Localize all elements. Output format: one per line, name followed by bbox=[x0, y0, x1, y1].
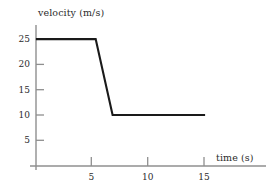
chart-figure: velocity (m/s) time (s) 5 10 15 20 25 5 … bbox=[0, 0, 270, 193]
y-tick-label-15: 15 bbox=[10, 85, 30, 95]
x-tick-label-5: 5 bbox=[81, 172, 101, 182]
velocity-axis-ticks bbox=[36, 39, 44, 140]
x-axis-title: time (s) bbox=[216, 152, 254, 163]
y-tick-label-5: 5 bbox=[10, 135, 30, 145]
time-axis-ticks bbox=[91, 157, 204, 166]
y-tick-label-20: 20 bbox=[10, 59, 30, 69]
x-tick-label-10: 10 bbox=[138, 172, 158, 182]
x-tick-label-15: 15 bbox=[194, 172, 214, 182]
y-axis-title: velocity (m/s) bbox=[38, 7, 104, 18]
velocity-time-line bbox=[36, 39, 205, 115]
chart-plot-area bbox=[0, 0, 270, 193]
y-tick-label-25: 25 bbox=[10, 34, 30, 44]
y-tick-label-10: 10 bbox=[10, 110, 30, 120]
